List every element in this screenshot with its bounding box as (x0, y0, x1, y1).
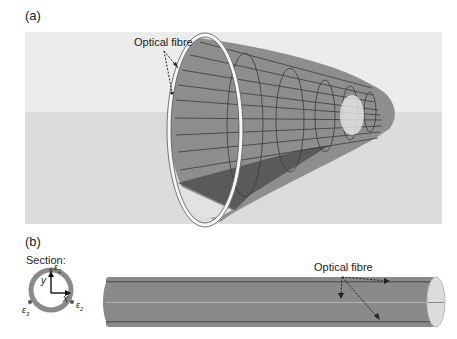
panel-b-label: (b) (25, 234, 41, 249)
panel-a-annotation: Optical fibre (134, 36, 193, 48)
panel-b-annotation: Optical fibre (314, 261, 373, 273)
axis-y-label: y (41, 275, 46, 286)
panel-a-illustration (0, 0, 457, 339)
sensor-2-label: ε2 (76, 300, 83, 312)
sensor-1-label: ε1 (54, 262, 61, 274)
sensor-3-label: ε3 (22, 305, 29, 317)
axis-x-label: x (63, 293, 68, 304)
